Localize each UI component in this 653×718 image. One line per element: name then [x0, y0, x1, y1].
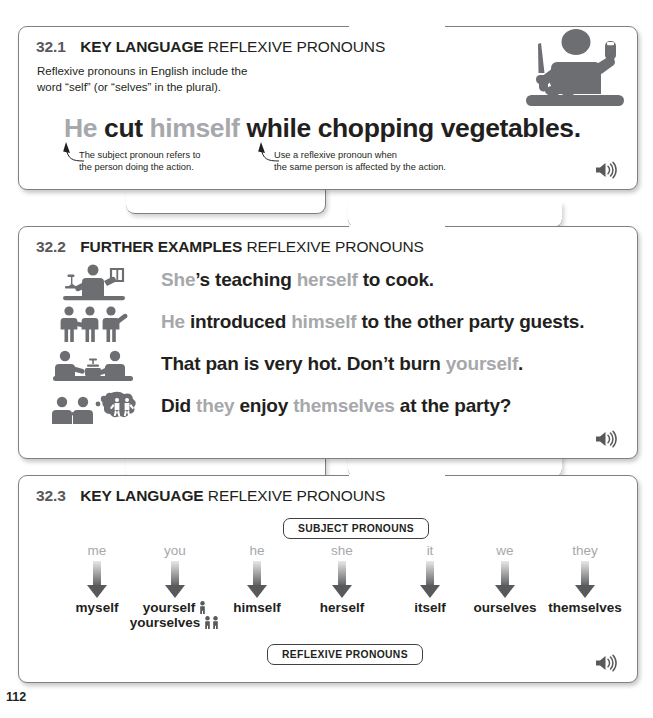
example-sentence: Did they enjoy themselves at the party?: [161, 395, 511, 417]
sentence-word: while chopping vegetables.: [240, 113, 581, 143]
worksheet-page: 32.1 KEY LANGUAGE REFLEXIVE PRONOUNS Ref…: [0, 0, 653, 718]
section-heading-32-2: 32.2 FURTHER EXAMPLES REFLEXIVE PRONOUNS: [36, 238, 424, 256]
reflexive-pronoun: yourself: [143, 600, 196, 615]
people-thinking-of-party-icon: [49, 389, 141, 427]
chef-cutting-finger-icon: [497, 29, 625, 111]
callout-line: the person doing the action.: [79, 162, 194, 172]
sentence-word: they: [196, 395, 234, 416]
sentence-word: himself: [291, 311, 356, 332]
sentence-word: yourself: [446, 353, 518, 374]
pronoun-column-they: they themselves: [537, 542, 633, 615]
sentence-word: at the party?: [395, 395, 512, 416]
section-heading-32-1: 32.1 KEY LANGUAGE REFLEXIVE PRONOUNS: [36, 38, 385, 56]
section-kind-label: FURTHER EXAMPLES: [80, 238, 242, 255]
section-number: 32.2: [36, 238, 66, 255]
sentence-word: to the other party guests.: [356, 311, 584, 332]
reflexive-pronoun-plural: yourselves: [127, 615, 223, 630]
down-arrow-icon: [537, 560, 633, 600]
section-card-32-1: 32.1 KEY LANGUAGE REFLEXIVE PRONOUNS Ref…: [18, 26, 638, 190]
sentence-word: cut: [97, 113, 149, 143]
sentence-word: introduced: [185, 311, 291, 332]
sentence-word: enjoy: [234, 395, 293, 416]
example-row: She’s teaching herself to cook.: [49, 263, 609, 303]
section-number: 32.1: [36, 38, 66, 55]
section-intro-text: Reflexive pronouns in English include th…: [37, 63, 247, 95]
reflexive-pronoun: herself: [294, 600, 390, 615]
sentence-word: themselves: [293, 395, 395, 416]
speaker-icon[interactable]: [595, 430, 617, 448]
section-heading-32-3: 32.3 KEY LANGUAGE REFLEXIVE PRONOUNS: [36, 487, 385, 505]
speaker-icon[interactable]: [595, 161, 617, 179]
sentence-word: himself: [150, 113, 240, 143]
sentence-word: Did: [161, 395, 196, 416]
sentence-word: .: [518, 353, 523, 374]
callout-text-reflexive-pronoun: Use a reflexive pronoun when the same pe…: [274, 149, 446, 173]
callout-line: Use a reflexive pronoun when: [274, 150, 397, 160]
sentence-word: He: [64, 113, 97, 143]
example-row: Did they enjoy themselves at the party?: [49, 389, 609, 429]
subject-pronoun: she: [294, 542, 390, 560]
reflexive-pronoun: themselves: [537, 600, 633, 615]
sentence-word: herself: [297, 269, 358, 290]
sentence-word: That pan is very hot. Don’t burn: [161, 353, 446, 374]
reflexive-pronoun: yourselves: [130, 615, 201, 630]
example-sentence: He introduced himself to the other party…: [161, 311, 584, 333]
callout-text-subject-pronoun: The subject pronoun refers to the person…: [79, 149, 200, 173]
reflexive-pronouns-label: REFLEXIVE PRONOUNS: [267, 644, 423, 665]
section-topic-label: REFLEXIVE PRONOUNS: [246, 238, 423, 255]
subject-pronouns-label: SUBJECT PRONOUNS: [283, 518, 429, 539]
pronoun-column-she: she herself: [294, 542, 390, 615]
person-teaching-cooking-icon: [49, 263, 141, 301]
section-card-32-3: 32.3 KEY LANGUAGE REFLEXIVE PRONOUNS SUB…: [18, 475, 638, 683]
section-topic-label: REFLEXIVE PRONOUNS: [208, 38, 385, 55]
sentence-word: He: [161, 311, 185, 332]
example-sentence: She’s teaching herself to cook.: [161, 269, 434, 291]
two-people-icon: [203, 616, 220, 629]
section-card-32-2: 32.2 FURTHER EXAMPLES REFLEXIVE PRONOUNS: [18, 226, 638, 459]
example-row: He introduced himself to the other party…: [49, 305, 609, 345]
three-people-introducing-icon: [49, 305, 141, 343]
subject-pronoun: he: [209, 542, 305, 560]
section-kind-label: KEY LANGUAGE: [80, 38, 203, 55]
key-language-sentence: He cut himself while chopping vegetables…: [64, 113, 581, 144]
hot-pan-on-stove-icon: [49, 347, 141, 385]
page-number: 112: [6, 690, 26, 704]
card-connector-tab: [126, 188, 326, 214]
example-row: That pan is very hot. Don’t burn yoursel…: [49, 347, 609, 387]
section-number: 32.3: [36, 487, 66, 504]
one-person-icon: [198, 601, 207, 614]
down-arrow-icon: [209, 560, 305, 600]
sentence-word: to cook.: [358, 269, 434, 290]
section-kind-label: KEY LANGUAGE: [80, 487, 203, 504]
down-arrow-icon: [294, 560, 390, 600]
sentence-word: ’s teaching: [195, 269, 296, 290]
subject-pronoun: they: [537, 542, 633, 560]
reflexive-pronoun: himself: [209, 600, 305, 615]
callout-line: the same person is affected by the actio…: [274, 162, 446, 172]
example-sentence: That pan is very hot. Don’t burn yoursel…: [161, 353, 523, 375]
speaker-icon[interactable]: [595, 654, 617, 672]
sentence-word: She: [161, 269, 195, 290]
section-topic-label: REFLEXIVE PRONOUNS: [208, 487, 385, 504]
callout-line: The subject pronoun refers to: [79, 150, 200, 160]
pronoun-column-he: he himself: [209, 542, 305, 615]
